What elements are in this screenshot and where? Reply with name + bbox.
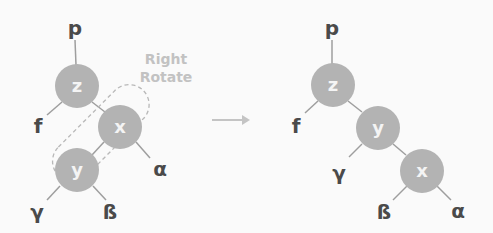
right-arrow-icon <box>212 115 250 125</box>
before-tree: z x y p f α γ ß Right Rotate <box>30 16 192 224</box>
subtree-f-label: f <box>292 114 301 138</box>
node-y-label: y <box>372 117 384 138</box>
after-tree: z y x p f γ ß α <box>292 16 465 224</box>
subtree-alpha-label: α <box>451 199 465 223</box>
node-x-label: x <box>416 160 428 181</box>
subtree-f-label: f <box>34 114 43 138</box>
caption-line-1: Right <box>145 51 188 67</box>
subtree-beta-label: ß <box>377 200 391 224</box>
subtree-gamma-label: γ <box>332 161 346 185</box>
subtree-beta-label: ß <box>103 200 117 224</box>
node-z-label: z <box>328 74 338 95</box>
subtree-alpha-label: α <box>153 157 167 181</box>
subtree-gamma-label: γ <box>30 200 44 224</box>
node-z-label: z <box>72 75 82 96</box>
right-rotate-diagram: z x y p f α γ ß Right Rotate z y x p f <box>0 0 493 233</box>
node-y-label: y <box>71 159 83 180</box>
caption-line-2: Rotate <box>140 69 193 85</box>
parent-label: p <box>68 16 82 40</box>
node-x-label: x <box>114 116 126 137</box>
parent-label: p <box>325 16 339 40</box>
